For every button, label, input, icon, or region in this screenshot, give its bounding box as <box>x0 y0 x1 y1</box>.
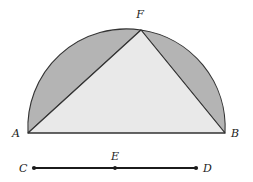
label-point-f: F <box>135 8 144 21</box>
label-point-a: A <box>11 127 20 140</box>
midpoint-dot-e <box>113 166 117 170</box>
figure-canvas: A B F C D E <box>0 0 253 182</box>
label-point-b: B <box>230 127 239 140</box>
label-point-d: D <box>202 162 212 175</box>
label-point-c: C <box>19 162 28 175</box>
label-point-e: E <box>110 150 119 163</box>
geometry-figure: A B F C D E <box>0 0 253 182</box>
endpoint-dot-d <box>194 166 198 170</box>
endpoint-dot-c <box>32 166 36 170</box>
